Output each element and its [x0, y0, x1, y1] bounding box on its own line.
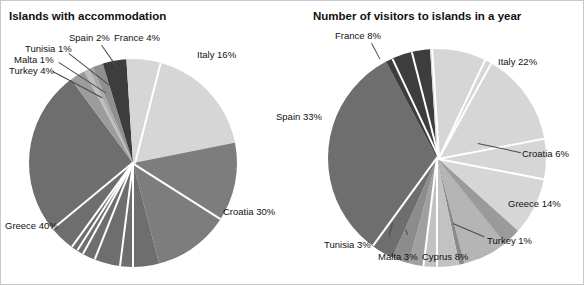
pie-chart-islands-with-accommodation: Islands with accommodation [1, 1, 293, 285]
label-france-left: France 4% [114, 32, 160, 43]
label-malta-right: Malta 3% [378, 251, 418, 262]
label-spain-left: Spain 2% [69, 32, 110, 43]
chart-page: Islands with accommodation [0, 0, 584, 285]
chart-title-left: Islands with accommodation [9, 10, 166, 22]
label-greece-left: Greece 40% [5, 220, 58, 231]
label-turkey-right: Turkey 1% [487, 235, 532, 246]
label-turkey-left: Turkey 4% [9, 65, 54, 76]
chart-title-right: Number of visitors to islands in a year [313, 10, 521, 22]
label-france-right: France 8% [335, 30, 381, 41]
label-croatia-right: Croatia 6% [522, 148, 569, 159]
label-tunisia-right: Tunisia 3% [324, 239, 371, 250]
pie-left-disc [29, 59, 237, 267]
label-croatia-left: Croatia 30% [223, 206, 275, 217]
pie-chart-visitors-to-islands: Number of visitors to islands in a year [293, 1, 584, 285]
label-spain-right: Spain 33% [276, 111, 322, 122]
slice-divider [132, 163, 134, 267]
label-tunisia-left: Tunisia 1% [25, 43, 72, 54]
label-malta-left: Malta 1% [14, 54, 54, 65]
label-cyprus-right: Cyprus 8% [422, 251, 468, 262]
label-italy-left: Italy 16% [197, 49, 236, 60]
label-italy-right: Italy 22% [498, 56, 537, 67]
pie-left [29, 59, 237, 267]
label-greece-right: Greece 14% [508, 198, 561, 209]
